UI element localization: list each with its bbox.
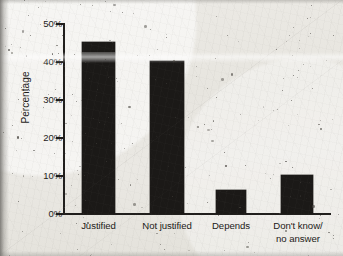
bar-dont-know — [281, 175, 313, 213]
y-tick-label-30: 30% — [43, 94, 62, 105]
bar-depends — [216, 190, 246, 213]
y-tick-label-0: 0% — [48, 208, 62, 219]
bar-justified — [82, 42, 115, 213]
y-tick-label-10: 10% — [43, 170, 62, 181]
x-tick-label-dont-know: Don't know/ no answer — [258, 219, 338, 245]
y-axis-line — [63, 23, 65, 215]
bar-not-justified — [150, 61, 184, 213]
x-axis-line — [63, 213, 331, 215]
chart-page: Percentage 50% 40% 30% 20% 10% 0% Justif… — [0, 0, 343, 256]
y-axis-title: Percentage — [20, 59, 31, 137]
x-tick-label-depends: Depends — [194, 219, 268, 232]
y-tick-label-50: 50% — [43, 18, 62, 29]
bar-chart: Percentage 50% 40% 30% 20% 10% 0% Justif… — [0, 0, 343, 256]
y-tick-label-20: 20% — [43, 132, 62, 143]
y-tick-label-40: 40% — [43, 56, 62, 67]
